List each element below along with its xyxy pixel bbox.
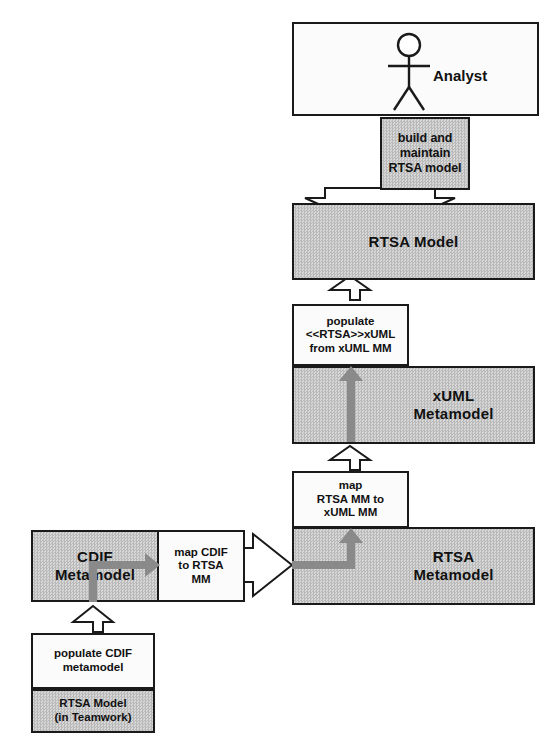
diagram-canvas: build and maintain RTSA model RTSA Model… [0, 0, 559, 756]
hollow-arrow-right-mapcdif-to-rtsa-metamodel [243, 534, 292, 596]
build-and-maintain-line1: build and maintain [382, 131, 468, 161]
rtsa-model-box[interactable]: RTSA Model [292, 203, 535, 280]
populate-xuml-note-box[interactable]: populate <<RTSA>>xUML from xUML MM [292, 304, 409, 366]
rtsa-metamodel-line2: Metamodel [413, 566, 493, 584]
xuml-metamodel-line2: Metamodel [413, 405, 493, 423]
cdif-metamodel-line2: Metamodel [55, 566, 135, 584]
rtsa-model-label: RTSA Model [369, 233, 459, 251]
populate-cdif-note-box[interactable]: populate CDIF metamodel [31, 633, 155, 689]
cdif-metamodel-box[interactable]: CDIF Metamodel [31, 530, 159, 602]
map-cdif-line1: map CDIF [174, 546, 228, 560]
map-rtsa-to-xuml-note-box[interactable]: map RTSA MM to xUML MM [292, 471, 409, 528]
analyst-actor-box[interactable] [292, 22, 539, 116]
map-rtsa-to-xuml-line3: xUML MM [324, 506, 377, 520]
populate-xuml-line3: from xUML MM [309, 342, 391, 356]
rtsa-metamodel-line1: RTSA [433, 548, 475, 566]
build-and-maintain-line2: RTSA model [389, 161, 462, 176]
map-cdif-line2: to RTSA [178, 559, 223, 573]
populate-xuml-line2: <<RTSA>>xUML [306, 328, 395, 342]
map-cdif-to-rtsa-note-box[interactable]: map CDIF to RTSA MM [157, 530, 245, 602]
map-cdif-line3: MM [191, 573, 210, 587]
rtsa-model-teamwork-line1: RTSA Model [59, 697, 126, 711]
cdif-metamodel-line1: CDIF [77, 548, 113, 566]
populate-cdif-line1: populate CDIF [54, 647, 132, 661]
map-rtsa-to-xuml-line2: RTSA MM to [317, 493, 384, 507]
build-and-maintain-note-box[interactable]: build and maintain RTSA model [380, 117, 470, 190]
hollow-arrow-up-populatecdif-to-cdif [73, 606, 113, 632]
xuml-metamodel-box[interactable]: xUML Metamodel [292, 366, 535, 444]
xuml-metamodel-line1: xUML [433, 387, 475, 405]
populate-cdif-line2: metamodel [63, 661, 124, 675]
rtsa-model-teamwork-box[interactable]: RTSA Model (in Teamwork) [31, 689, 155, 733]
rtsa-metamodel-box[interactable]: RTSA Metamodel [292, 527, 535, 605]
rtsa-model-teamwork-line2: (in Teamwork) [54, 711, 131, 725]
hollow-arrow-up-map-to-xuml-metamodel [330, 446, 370, 470]
map-rtsa-to-xuml-line1: map [339, 479, 363, 493]
populate-xuml-line1: populate [327, 315, 375, 329]
